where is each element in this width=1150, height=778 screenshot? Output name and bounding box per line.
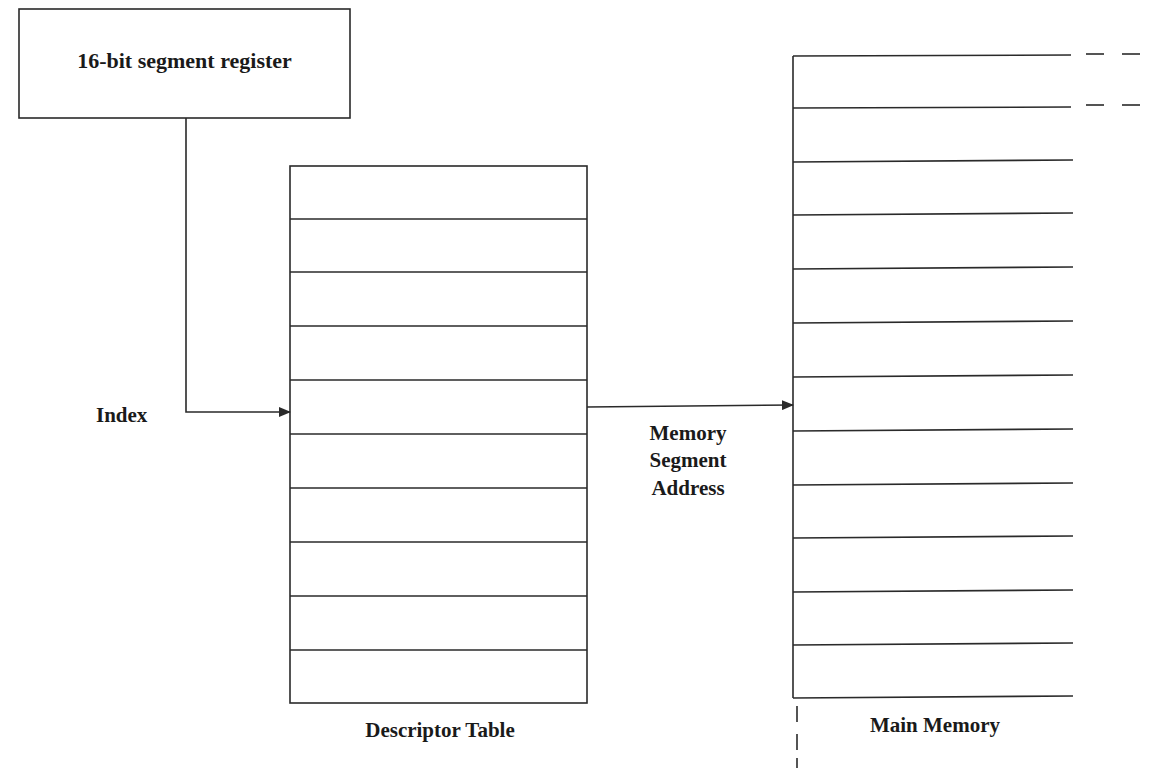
arrow-label-line3: Address [613, 475, 763, 502]
index-label: Index [96, 402, 147, 429]
memory-segment-address-arrow [587, 405, 793, 407]
descriptor-table-label: Descriptor Table [290, 717, 590, 744]
arrow-label-line1: Memory [613, 420, 763, 447]
arrow-label-line2: Segment [613, 447, 763, 474]
main-memory [793, 55, 1073, 698]
memory-segment-address-label: Memory Segment Address [613, 420, 763, 502]
main-memory-label: Main Memory [830, 712, 1040, 739]
descriptor-table [290, 166, 587, 703]
index-arrow [186, 118, 290, 412]
diagram-canvas [0, 0, 1150, 778]
segment-register-label: 16-bit segment register [19, 47, 350, 76]
